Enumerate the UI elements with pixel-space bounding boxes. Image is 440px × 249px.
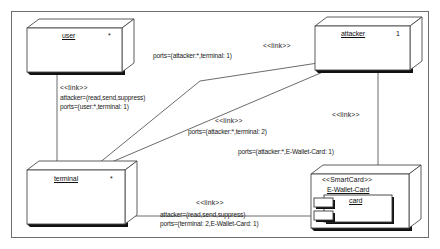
component-card-tab-top <box>314 198 333 207</box>
diagram-canvas: user * attacker 1 terminal * <<SmartCard… <box>0 0 440 249</box>
link-user-terminal-ports-attr: ports=(user:*,terminal: 1) <box>60 102 129 111</box>
link-attacker-ewallet-stereotype: <<link>> <box>332 110 360 119</box>
link-terminal-ewallet-attacker-attr: attacker=(read,send,suppress) <box>160 210 245 219</box>
node-user-side <box>122 19 134 72</box>
node-user-label: user <box>62 32 75 39</box>
node-attacker-top <box>315 17 422 26</box>
node-user[interactable] <box>27 19 134 75</box>
link-attacker-terminal-2-stereotype: <<link>> <box>215 116 243 125</box>
node-terminal-multiplicity: * <box>110 175 113 182</box>
node-user-multiplicity: * <box>108 32 111 39</box>
node-attacker[interactable] <box>315 17 422 73</box>
link-attacker-terminal-2-ports-attr: ports=(attacker:*,terminal: 2) <box>188 127 267 136</box>
component-card-label: card <box>349 197 362 204</box>
node-ewallet-card[interactable] <box>311 165 421 231</box>
node-attacker-side <box>410 17 422 70</box>
link-attacker-ewallet-ports-attr: ports=(attacker:*,E-Wallet-Card: 1) <box>238 147 334 156</box>
node-ewallet-top <box>311 165 421 174</box>
node-terminal-side <box>125 161 137 224</box>
link-terminal-ewallet-stereotype: <<link>> <box>196 198 224 207</box>
link-terminal-ewallet-ports-attr: ports=(terminal: 2,E-Wallet-Card: 1) <box>160 219 259 228</box>
node-attacker-label: attacker <box>341 30 365 37</box>
node-user-top <box>27 19 134 28</box>
node-ewallet-stereotype: <<SmartCard>> <box>322 176 372 183</box>
node-attacker-multiplicity: 1 <box>396 30 400 37</box>
link-user-terminal-attacker-attr: attacker=(read,send,suppress) <box>60 93 145 102</box>
component-card-tab-bottom <box>314 211 333 220</box>
node-ewallet-side <box>409 165 421 228</box>
link-attacker-terminal-1-ports-attr: ports=(attacker:*,terminal: 1) <box>153 51 232 60</box>
link-user-terminal-stereotype: <<link>> <box>60 83 88 92</box>
link-attacker-terminal-1-stereotype: <<link>> <box>263 41 291 50</box>
node-terminal-label: terminal <box>54 175 78 182</box>
node-terminal[interactable] <box>27 161 137 227</box>
node-ewallet-label: E-Wallet-Card <box>327 186 369 193</box>
node-terminal-top <box>27 161 137 170</box>
